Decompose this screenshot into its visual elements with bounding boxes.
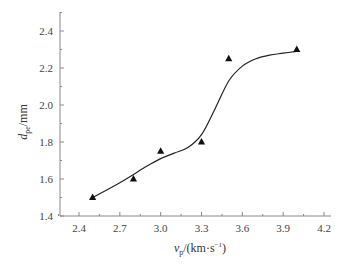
x-tick-label: 3.3 [195,222,209,234]
axes [60,12,331,216]
y-tick-label: 2.4 [39,25,53,37]
x-tick-label: 2.4 [72,222,86,234]
y-tick-label: 1.4 [39,210,53,222]
x-axis-ticks: 2.42.73.03.33.63.94.2 [59,212,331,234]
x-axis-label: vp/(km·s−1) [174,241,226,257]
data-point-triangle [293,46,300,53]
data-point-triangle [198,138,205,145]
y-tick-label: 2.2 [39,62,53,74]
data-markers [89,46,300,201]
y-axis-label: dpe/mm [16,104,32,140]
y-tick-label: 1.8 [39,136,53,148]
data-point-triangle [225,55,232,62]
chart: 2.42.73.03.33.63.94.2 1.41.61.82.02.22.4… [0,0,341,265]
y-tick-label: 2.0 [39,99,53,111]
data-point-triangle [157,147,164,154]
y-tick-label: 1.6 [39,173,53,185]
x-tick-label: 3.9 [276,222,290,234]
x-tick-label: 3.6 [235,222,249,234]
x-tick-label: 2.7 [113,222,127,234]
x-tick-label: 3.0 [154,222,168,234]
fitted-curve [93,51,297,197]
x-tick-label: 4.2 [317,222,331,234]
